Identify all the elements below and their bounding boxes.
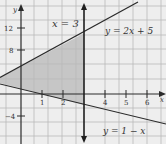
label-y-equals-2x-plus-5: y = 2x + 5 [104,26,153,36]
y-tick-neg4: −4 [5,113,16,121]
graph-figure: x y 12 8 −4 1 2 4 5 6 x = 3 y = 2x + 5 y… [0,0,166,144]
y-tick-8: 8 [9,47,13,55]
x-tick-5: 5 [124,99,128,107]
label-y-equals-1-minus-x: y = 1 − x [102,126,145,136]
x-tick-6: 6 [145,99,150,107]
x-axis-label: x [160,96,164,104]
y-tick-12: 12 [4,25,13,33]
x-tick-4: 4 [103,99,108,107]
label-x-equals-3: x = 3 [52,18,79,29]
x-tick-1: 1 [40,99,44,107]
